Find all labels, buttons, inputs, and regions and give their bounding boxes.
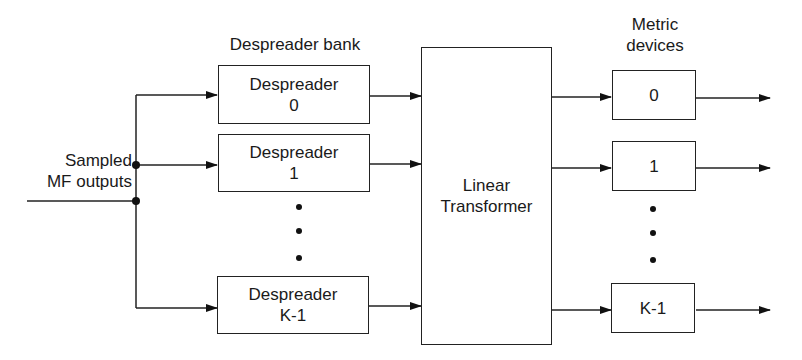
input-label-line1: Sampled bbox=[22, 150, 132, 171]
junction-dot bbox=[132, 197, 140, 205]
metric-title-line2: devices bbox=[600, 35, 710, 56]
despreader-box-0: Despreader 0 bbox=[218, 65, 370, 124]
metric-box-0: 0 bbox=[612, 70, 696, 120]
ellipsis-dot bbox=[296, 228, 302, 234]
metric-label: 1 bbox=[649, 156, 658, 177]
input-label: Sampled MF outputs bbox=[22, 150, 132, 192]
ellipsis-dot bbox=[296, 204, 302, 210]
ellipsis-dot bbox=[650, 257, 656, 263]
metric-box-k-1: K-1 bbox=[611, 283, 695, 333]
despreader-index: 1 bbox=[289, 163, 298, 184]
ellipsis-dot bbox=[650, 206, 656, 212]
transformer-label-line1: Linear bbox=[463, 175, 510, 196]
despreader-bank-title: Despreader bank bbox=[210, 34, 380, 55]
metric-box-1: 1 bbox=[612, 141, 696, 191]
metric-devices-title: Metric devices bbox=[600, 14, 710, 56]
despreader-box-1: Despreader 1 bbox=[218, 134, 370, 192]
input-label-line2: MF outputs bbox=[22, 171, 132, 192]
metric-label: K-1 bbox=[640, 298, 666, 319]
despreader-index: 0 bbox=[289, 95, 298, 116]
despreader-label: Despreader bbox=[250, 142, 339, 163]
metric-label: 0 bbox=[649, 85, 658, 106]
despreader-label: Despreader bbox=[249, 284, 338, 305]
junction-dot bbox=[132, 161, 140, 169]
metric-title-line1: Metric bbox=[600, 14, 710, 35]
ellipsis-dot bbox=[296, 255, 302, 261]
despreader-label: Despreader bbox=[250, 74, 339, 95]
transformer-label-line2: Transformer bbox=[441, 196, 533, 217]
despreader-index: K-1 bbox=[280, 305, 306, 326]
ellipsis-dot bbox=[650, 230, 656, 236]
linear-transformer-box: Linear Transformer bbox=[421, 47, 552, 345]
despreader-box-k-1: Despreader K-1 bbox=[217, 276, 369, 334]
